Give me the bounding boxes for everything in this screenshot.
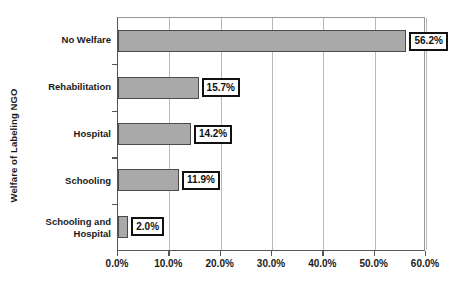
bar-value-label: 15.7% <box>202 78 240 97</box>
x-axis-ticks <box>117 251 425 257</box>
plot-area: 56.2% 15.7% 14.2% 11.9% 2.0% <box>117 17 425 251</box>
x-axis-tick-labels: 0.0%10.0%20.0%30.0%40.0%50.0%60.0% <box>117 258 425 274</box>
category-label: No Welfare <box>26 17 116 64</box>
bar[interactable] <box>118 77 199 99</box>
x-axis-tick-label: 30.0% <box>257 258 285 269</box>
bar[interactable] <box>118 216 128 238</box>
x-axis-tick-label: 10.0% <box>154 258 182 269</box>
x-axis-tick <box>322 251 323 256</box>
x-axis-tick <box>168 251 169 256</box>
category-label: Rehabilitation <box>26 64 116 111</box>
x-axis-tick-label: 20.0% <box>205 258 233 269</box>
gridline <box>426 18 427 250</box>
bar-value-label: 56.2% <box>409 32 447 51</box>
category-label-text: Schooling <box>65 175 111 187</box>
category-label: Hospital <box>26 111 116 158</box>
x-axis-tick <box>271 251 272 256</box>
category-axis-labels: No Welfare Rehabilitation Hospital Schoo… <box>26 17 116 251</box>
x-axis-tick-label: 0.0% <box>106 258 129 269</box>
category-label-text: Schooling and <box>46 216 111 228</box>
x-axis-tick-label: 60.0% <box>411 258 439 269</box>
bar-value-label: 2.0% <box>131 217 164 236</box>
category-label: Schooling <box>26 157 116 204</box>
category-label-text: Hospital <box>74 128 111 140</box>
x-axis-tick <box>220 251 221 256</box>
bar-row: 2.0% <box>118 204 424 250</box>
bars-layer: 56.2% 15.7% 14.2% 11.9% 2.0% <box>118 18 424 250</box>
bar-value-label: 11.9% <box>182 171 220 190</box>
bar[interactable] <box>118 123 191 145</box>
bar[interactable] <box>118 30 406 52</box>
category-label-text-2: Hospital <box>46 228 111 240</box>
bar-row: 15.7% <box>118 64 424 110</box>
category-label-text: Rehabilitation <box>48 81 111 93</box>
x-axis-tick-label: 50.0% <box>359 258 387 269</box>
bar-chart: Welfare of Labeling NGO No Welfare Rehab… <box>0 0 450 291</box>
bar-value-label: 14.2% <box>194 125 232 144</box>
category-label-text: No Welfare <box>62 34 111 46</box>
x-axis-tick <box>117 251 118 256</box>
bar-row: 11.9% <box>118 157 424 203</box>
bar[interactable] <box>118 169 179 191</box>
y-axis-title: Welfare of Labeling NGO <box>0 0 26 291</box>
x-axis-tick <box>374 251 375 256</box>
bar-row: 56.2% <box>118 18 424 64</box>
bar-row: 14.2% <box>118 111 424 157</box>
x-axis-tick-label: 40.0% <box>308 258 336 269</box>
x-axis-tick <box>425 251 426 256</box>
category-label: Schooling and Hospital <box>26 204 116 251</box>
